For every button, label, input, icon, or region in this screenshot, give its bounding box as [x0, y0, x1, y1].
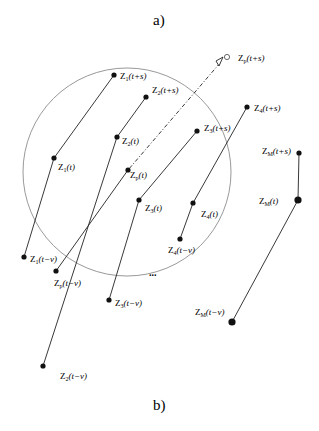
point-z2-0 [143, 94, 148, 99]
label-zp-0: Zp(t+s) [238, 53, 265, 64]
predicted-point-open-circle [224, 54, 229, 59]
trajectory-segment-1 [54, 75, 114, 158]
label-z3-1: Z3(t) [145, 203, 162, 214]
label-z1-1: Z1(t) [58, 162, 75, 173]
point-z2-1 [114, 134, 119, 139]
point-zp-2 [53, 268, 58, 273]
trajectory-segment-3 [139, 131, 197, 200]
caption-a: a) [153, 12, 165, 29]
label-zp-2: Zp(t−v) [54, 278, 81, 289]
trajectory-segment-1 [24, 158, 54, 257]
point-labels: Z1(t+s)Z1(t)Z1(t−v)Z2(t+s)Z2(t)Z2(t−v)Z3… [30, 53, 291, 382]
point-zM-0 [296, 150, 301, 155]
point-z1-0 [111, 72, 116, 77]
arrowhead-icon [216, 57, 223, 66]
caption-b: b) [153, 397, 166, 414]
label-z4-2: Z4(t−v) [168, 245, 195, 256]
trajectory-segment-M [298, 153, 299, 200]
label-zp-1: Zp(t) [130, 170, 147, 181]
point-z1-1 [51, 155, 56, 160]
point-z3-0 [194, 128, 199, 133]
point-z2-2 [40, 363, 45, 368]
trajectory-segment-4 [180, 203, 193, 239]
label-z1-0: Z1(t+s) [120, 71, 147, 82]
point-z3-1 [136, 197, 141, 202]
label-zM-0: ZM(t+s) [262, 146, 291, 157]
point-z4-2 [177, 236, 182, 241]
trajectory-segment-p [56, 170, 128, 271]
label-z4-1: Z4(t) [201, 209, 218, 220]
label-z4-0: Z4(t+s) [254, 103, 281, 114]
label-z1-2: Z1(t−v) [30, 254, 57, 265]
trajectory-segment-M [232, 200, 298, 322]
point-zM-1 [294, 196, 301, 203]
trajectory-segment-3 [109, 200, 139, 300]
point-z3-2 [106, 297, 111, 302]
label-z2-2: Z2(t−v) [60, 371, 87, 382]
point-z4-1 [190, 200, 195, 205]
point-z1-2 [21, 254, 26, 259]
label-z2-0: Z2(t+s) [152, 85, 179, 96]
point-zM-2 [228, 318, 235, 325]
label-z3-2: Z3(t−v) [115, 298, 142, 309]
trajectory-segment-4 [193, 107, 247, 203]
label-z2-1: Z2(t) [122, 136, 139, 147]
label-z3-0: Z3(t+s) [204, 123, 231, 134]
label-zM-2: ZM(t−v) [195, 307, 224, 318]
trajectory-segment-2 [117, 97, 146, 137]
label-zM-1: ZM(t) [259, 196, 278, 207]
trajectory-segment-2 [43, 137, 117, 366]
ellipsis-marker: ... [149, 267, 157, 278]
trajectory-diagram: a) Z1(t+s)Z1(t)Z1(t−v)Z2(t+s)Z2(t)Z2(t−v… [0, 0, 319, 431]
point-z4-0 [244, 104, 249, 109]
